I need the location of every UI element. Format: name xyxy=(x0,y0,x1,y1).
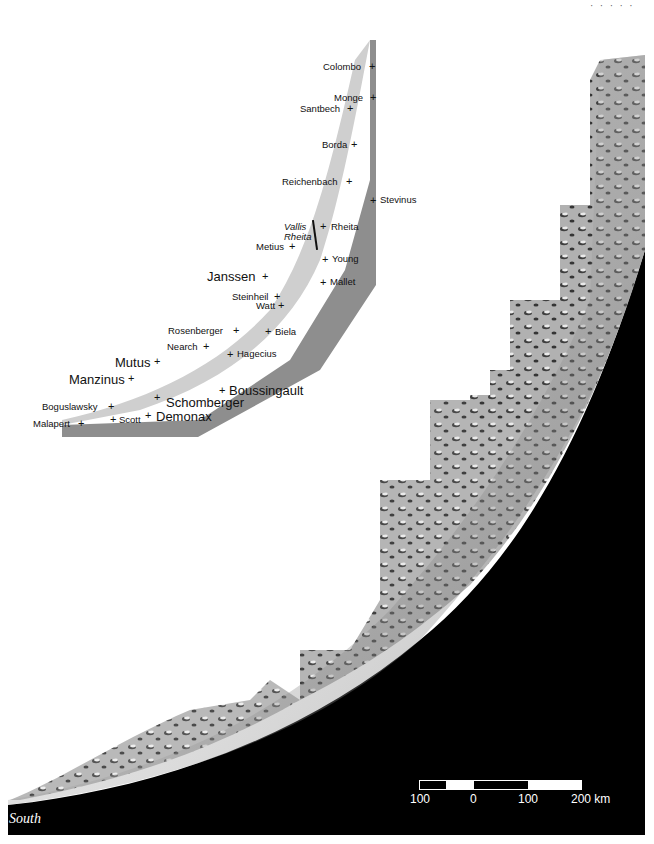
crater-marker-icon: + xyxy=(347,103,353,114)
crater-marker-icon: + xyxy=(203,341,209,352)
crater-marker-icon: + xyxy=(289,241,295,252)
scale-tick-label: 0 xyxy=(470,793,477,805)
crater-label-santbech: Santbech xyxy=(300,104,340,114)
scale-tick-label: 100 xyxy=(518,793,538,805)
crater-label-rheita: Rheita xyxy=(331,222,358,232)
crater-label-metius: Metius xyxy=(256,242,284,252)
crater-label-biela: Biela xyxy=(275,327,296,337)
crater-marker-icon: + xyxy=(262,271,268,282)
crater-label-janssen: Janssen xyxy=(207,270,255,283)
crater-label-reichenbach: Reichenbach xyxy=(282,177,337,187)
crater-label-boguslawsky: Schomberger xyxy=(166,396,244,409)
crater-marker-icon: + xyxy=(227,349,233,360)
crater-label-borda: Borda xyxy=(322,140,347,150)
crater-label-hagecius: Hagecius xyxy=(237,349,277,359)
crater-marker-icon: + xyxy=(154,392,160,403)
crater-marker-icon: + xyxy=(278,300,284,311)
crater-label-malapert: Malapert xyxy=(33,419,70,429)
page-number: · · · · · xyxy=(590,0,635,11)
crater-label-demonax: Demonax xyxy=(156,410,212,423)
crater-marker-icon: + xyxy=(145,410,151,421)
map-page: · · · · · Colombo + Monge + Santbech + B… xyxy=(0,0,654,844)
crater-label-colombo: Colombo xyxy=(323,62,361,72)
crater-marker-icon: + xyxy=(265,326,271,337)
crater-label-mutus: Mutus xyxy=(115,356,150,369)
crater-label-rosenberger: Rosenberger xyxy=(168,326,223,336)
crater-marker-icon: + xyxy=(78,418,84,429)
scale-tick-label: 100 xyxy=(410,793,430,805)
crater-marker-icon: + xyxy=(154,356,160,367)
orientation-label: South xyxy=(9,811,41,827)
crater-marker-icon: + xyxy=(110,414,116,425)
moon-limb-image xyxy=(0,0,654,844)
crater-label-manzinus: Manzinus xyxy=(69,373,125,386)
scale-tick-label: 200 km xyxy=(571,793,610,805)
crater-marker-icon: + xyxy=(370,195,376,206)
crater-marker-icon: + xyxy=(320,277,326,288)
crater-marker-icon: + xyxy=(369,61,375,72)
crater-marker-icon: + xyxy=(108,401,114,412)
crater-marker-icon: + xyxy=(128,373,134,384)
crater-label-young: Young xyxy=(332,254,359,264)
crater-label-mallet: Mallet xyxy=(330,277,355,287)
crater-label-nearch: Nearch xyxy=(167,342,198,352)
crater-marker-icon: + xyxy=(370,92,376,103)
crater-label-scott: Scott xyxy=(119,415,141,425)
crater-label-schomberger: Boguslawsky xyxy=(42,402,97,412)
crater-marker-icon: + xyxy=(322,254,328,265)
crater-label-watt: Watt xyxy=(256,301,275,311)
crater-marker-icon: + xyxy=(346,176,352,187)
scale-bar xyxy=(419,780,582,790)
crater-marker-icon: + xyxy=(351,139,357,150)
crater-marker-icon: + xyxy=(320,221,326,232)
crater-label-stevinus: Stevinus xyxy=(380,195,416,205)
crater-marker-icon: + xyxy=(233,325,239,336)
